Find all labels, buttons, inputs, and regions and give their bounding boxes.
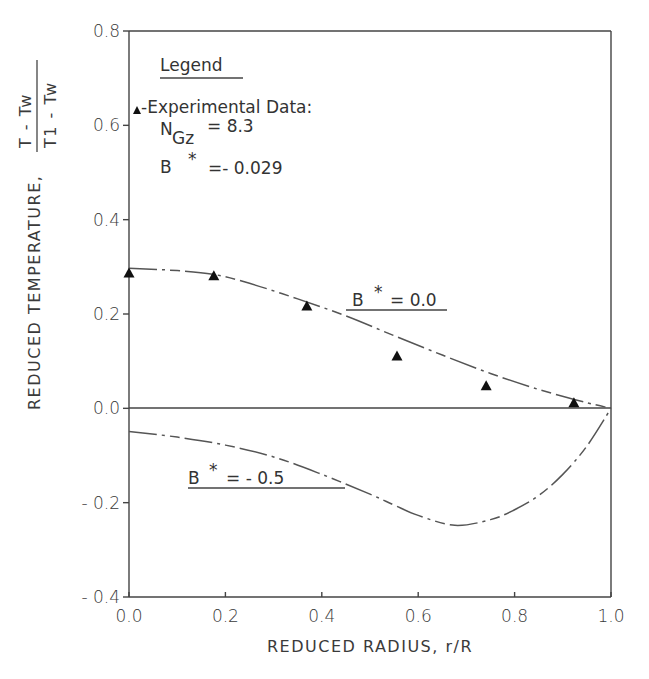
legend: Legend -Experimental Data: N Gz = 8.3 B … — [133, 55, 312, 178]
x-tick-label: 0.0 — [115, 606, 142, 626]
y-tick-label: 0.8 — [93, 21, 120, 41]
x-axis-title: REDUCED RADIUS, r/R — [267, 637, 473, 656]
y-axis-fraction: T - Tw T1 - Tw — [16, 60, 60, 152]
y-ticks: 0.80.60.40.20.0- 0.2- 0.4 — [81, 21, 129, 607]
legend-ngz-value: = 8.3 — [207, 116, 254, 136]
curve-b-star-0 — [129, 268, 611, 408]
triangle-marker-icon — [208, 270, 219, 280]
curve-label-b0-value: = 0.0 — [390, 290, 437, 310]
legend-ngz-n: N — [160, 119, 173, 139]
legend-bstar-value: =- 0.029 — [208, 158, 282, 178]
y-tick-label: 0.4 — [93, 210, 120, 230]
legend-title: Legend — [160, 55, 222, 75]
curve-label-b0-star: * — [374, 282, 383, 302]
curve-label-bm05-star: * — [209, 460, 218, 480]
y-axis-fraction-denominator: T1 - Tw — [41, 81, 60, 149]
x-tick-label: 0.4 — [308, 606, 335, 626]
curve-b-star-minus-0-5 — [129, 408, 611, 525]
legend-entry: -Experimental Data: — [141, 97, 312, 117]
triangle-marker-icon — [133, 106, 141, 114]
x-tick-label: 0.2 — [212, 606, 239, 626]
y-tick-label: 0.6 — [93, 115, 120, 135]
curve-label-b0-letter: B — [352, 290, 364, 310]
chart: 0.80.60.40.20.0- 0.2- 0.4 0.00.20.40.60.… — [0, 0, 649, 679]
y-tick-label: - 0.2 — [81, 493, 120, 513]
curve-label-b-star-0: B * = 0.0 — [346, 282, 447, 310]
y-axis-title-group: REDUCED TEMPERATURE, — [25, 175, 44, 410]
curve-label-b-star-minus-0-5: B * = - 0.5 — [188, 460, 345, 488]
y-tick-label: 0.0 — [93, 398, 120, 418]
x-tick-label: 0.8 — [501, 606, 528, 626]
curve-label-bm05-letter: B — [188, 468, 200, 488]
y-axis-fraction-numerator: T - Tw — [16, 93, 35, 149]
triangle-marker-icon — [301, 300, 312, 310]
y-tick-label: - 0.4 — [81, 587, 120, 607]
triangle-marker-icon — [391, 350, 402, 360]
triangle-marker-icon — [481, 380, 492, 390]
legend-bstar-b: B — [160, 157, 172, 177]
curves — [129, 268, 611, 525]
curve-label-bm05-value: = - 0.5 — [226, 468, 284, 488]
legend-ngz-subscript: Gz — [172, 128, 194, 148]
x-tick-label: 0.6 — [405, 606, 432, 626]
y-tick-label: 0.2 — [93, 304, 120, 324]
legend-bstar-star: * — [188, 149, 197, 169]
y-axis-title: REDUCED TEMPERATURE, — [25, 175, 44, 410]
x-tick-label: 1.0 — [597, 606, 624, 626]
experimental-data-markers — [124, 267, 580, 407]
